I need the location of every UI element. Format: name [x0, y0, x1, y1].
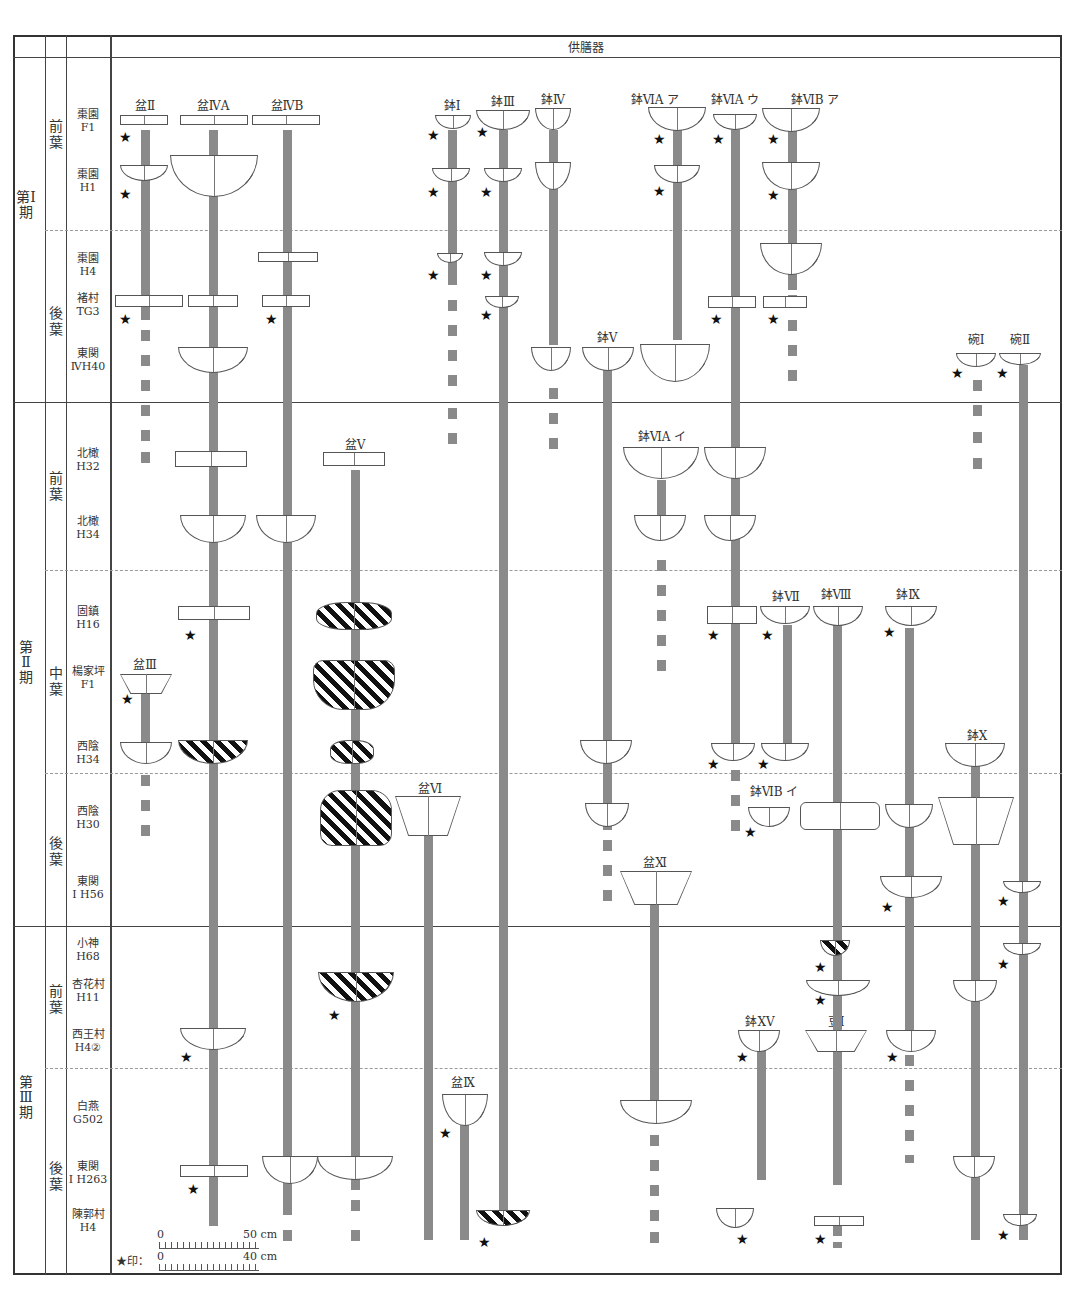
- site-label: 白燕G502: [68, 1100, 108, 1126]
- site-label: 北橄H32: [68, 447, 108, 473]
- site-label: 陳郭村H4: [64, 1208, 112, 1234]
- uncertain-marker: [905, 1155, 914, 1163]
- vessel-drawing: [115, 295, 183, 307]
- star-icon: ★: [480, 185, 493, 199]
- site-label: 北橄H34: [68, 515, 108, 541]
- site-label: 褚村TG3: [68, 292, 108, 318]
- continuity-bar: [424, 830, 433, 1240]
- type-label: 鉢ⅥA ウ: [711, 90, 760, 107]
- uncertain-marker: [209, 1215, 218, 1226]
- star-icon: ★: [996, 366, 1009, 380]
- star-icon: ★: [707, 757, 720, 771]
- star-icon: ★: [427, 185, 440, 199]
- period-label: 第Ⅱ期: [16, 640, 36, 685]
- uncertain-marker: [448, 375, 457, 386]
- type-label: 碗Ⅱ: [1010, 330, 1030, 347]
- star-icon: ★: [653, 132, 666, 146]
- continuity-bar: [1019, 365, 1028, 1240]
- vessel-drawing: [180, 1165, 248, 1177]
- star-icon: ★: [761, 628, 774, 642]
- uncertain-marker: [657, 610, 666, 621]
- vessel-drawing: [313, 660, 395, 710]
- star-icon: ★: [757, 757, 770, 771]
- continuity-bar: [783, 625, 792, 745]
- uncertain-marker: [905, 1080, 914, 1091]
- site-label: 杏花村H11: [64, 978, 112, 1004]
- uncertain-marker: [448, 300, 457, 311]
- subperiod-label: 前葉: [47, 470, 65, 502]
- vessel-drawing: [800, 802, 880, 830]
- star-icon: ★: [476, 125, 489, 139]
- star-icon: ★: [119, 130, 132, 144]
- vessel-drawing: [323, 452, 385, 466]
- uncertain-marker: [731, 770, 740, 781]
- uncertain-marker: [650, 1160, 659, 1171]
- continuity-bar: [757, 1050, 766, 1180]
- header-title: 供膳器: [110, 38, 1062, 55]
- vessel-drawing: [175, 451, 247, 467]
- site-label: 楊家坪F1: [64, 665, 112, 691]
- scale-star-prefix: ★印：: [116, 1252, 149, 1268]
- star-icon: ★: [478, 1235, 491, 1249]
- site-label: 東関ⅣH40: [68, 347, 108, 373]
- type-label: 盆Ⅵ: [418, 779, 442, 796]
- type-label: 鉢Ⅷ: [821, 585, 852, 602]
- continuity-bar: [283, 130, 292, 1215]
- type-label: 盆Ⅲ: [133, 655, 157, 672]
- star-icon: ★: [427, 268, 440, 282]
- period-label: 第Ⅰ期: [16, 190, 36, 220]
- uncertain-marker: [657, 660, 666, 671]
- uncertain-marker: [141, 380, 150, 391]
- star-icon: ★: [814, 1232, 827, 1246]
- star-icon: ★: [997, 1228, 1010, 1242]
- uncertain-marker: [141, 330, 150, 341]
- uncertain-marker: [141, 452, 150, 463]
- star-icon: ★: [265, 312, 278, 326]
- uncertain-marker: [209, 1190, 218, 1201]
- star-icon: ★: [997, 957, 1010, 971]
- scale-bar-50cm: [159, 1242, 259, 1249]
- subperiod-label: 中葉: [47, 665, 65, 697]
- scale-bar-40cm: [159, 1264, 259, 1271]
- type-label: 盆ⅣA: [197, 96, 230, 113]
- header-divider: [13, 57, 1062, 58]
- scale-zero: 0: [157, 1228, 164, 1241]
- star-icon: ★: [883, 625, 896, 639]
- vessel-drawing: [320, 790, 392, 846]
- type-label: 鉢ⅥB ア: [791, 90, 840, 107]
- continuity-bar: [833, 625, 842, 1185]
- uncertain-marker: [448, 433, 457, 444]
- continuity-bar: [209, 130, 218, 1215]
- type-label: 盆Ⅸ: [451, 1073, 475, 1090]
- uncertain-marker: [549, 388, 558, 399]
- type-label: 鉢Ⅰ: [444, 96, 461, 113]
- star-icon: ★: [736, 1232, 749, 1246]
- vessel-drawing: [330, 740, 374, 764]
- star-icon: ★: [951, 366, 964, 380]
- vessel-drawing: [814, 1216, 864, 1226]
- vessel-drawing: [180, 115, 248, 125]
- period-divider: [13, 402, 1062, 403]
- uncertain-marker: [141, 430, 150, 441]
- site-label: 東関Ⅰ H56: [68, 875, 108, 901]
- type-label: 鉢ⅥA ア: [631, 90, 680, 107]
- star-icon: ★: [881, 900, 894, 914]
- star-icon: ★: [707, 628, 720, 642]
- subperiod-label: 後葉: [47, 835, 65, 867]
- continuity-bar: [650, 900, 659, 1100]
- subperiod-label: 前葉: [47, 983, 65, 1015]
- uncertain-marker: [603, 890, 612, 901]
- site-label: 西王村H4②: [64, 1028, 112, 1054]
- star-icon: ★: [180, 1050, 193, 1064]
- star-icon: ★: [187, 1182, 200, 1196]
- star-icon: ★: [814, 993, 827, 1007]
- type-label: 碗Ⅰ: [968, 330, 985, 347]
- vessel-drawing: [707, 606, 757, 624]
- vessel-drawing: [708, 296, 756, 308]
- subperiod-divider: [45, 570, 1062, 571]
- type-label: 鉢ⅥA イ: [638, 427, 687, 444]
- type-label: 鉢ⅥB イ: [750, 782, 799, 799]
- star-icon: ★: [427, 128, 440, 142]
- star-icon: ★: [886, 1050, 899, 1064]
- uncertain-marker: [141, 775, 150, 786]
